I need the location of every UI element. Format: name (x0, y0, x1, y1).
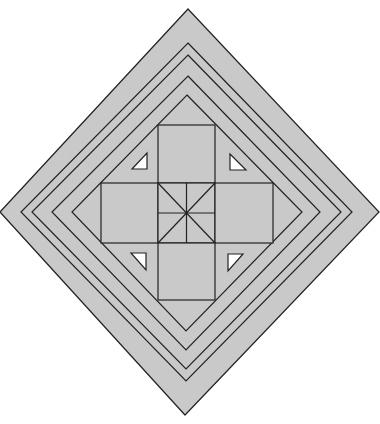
quilt-diagram (0, 0, 380, 424)
top-square (158, 125, 215, 183)
left-square (101, 183, 158, 243)
bottom-square (158, 243, 215, 300)
center-star-lines (158, 183, 215, 243)
right-square (215, 183, 273, 243)
